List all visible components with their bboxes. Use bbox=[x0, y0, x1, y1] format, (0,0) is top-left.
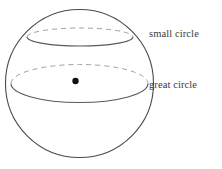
great-circle-label: great circle bbox=[149, 79, 197, 91]
small-circle-visible-arc bbox=[27, 37, 133, 46]
great-circle-visible-arc bbox=[11, 84, 148, 103]
figure-container: small circle great circle bbox=[0, 0, 222, 169]
sphere-outline-circle bbox=[6, 10, 154, 158]
small-circle-hidden-arc bbox=[27, 28, 133, 37]
small-circle-label: small circle bbox=[149, 28, 199, 40]
sphere-center-dot bbox=[72, 78, 78, 84]
great-circle-hidden-arc bbox=[11, 65, 148, 84]
